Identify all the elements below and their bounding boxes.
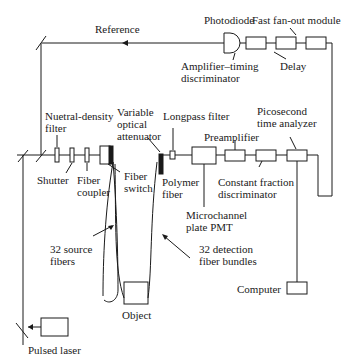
label-source-fibers-2: fibers xyxy=(50,255,75,267)
label-var-att-1: Variable xyxy=(117,106,154,118)
label-polymer-2: fiber xyxy=(162,188,183,200)
label-preamp: Preamplifier xyxy=(204,131,259,143)
label-computer: Computer xyxy=(237,283,281,295)
label-nd-filter-1: Nuetral-density xyxy=(45,110,113,122)
label-reference: Reference xyxy=(95,23,140,35)
label-detection-1: 32 detection xyxy=(199,243,253,255)
label-pico-2: time analyzer xyxy=(257,117,317,129)
label-amp-timing-2: discriminator xyxy=(181,72,240,84)
label-amp-timing-1: Amplifier–timing xyxy=(181,60,259,72)
label-fiber-switch-1: Fiber xyxy=(124,170,147,182)
label-delay: Delay xyxy=(280,60,306,72)
label-cfd-2: discriminator xyxy=(218,188,277,200)
diagram-root: Reference Photodiode Fast fan-out module… xyxy=(0,0,348,363)
label-cfd-1: Constant fraction xyxy=(218,176,294,188)
label-pulsed-laser: Pulsed laser xyxy=(28,344,81,356)
label-var-att-3: attenuator xyxy=(117,130,161,142)
label-var-att-2: optical xyxy=(117,118,147,130)
label-mcp-1: Microchannel xyxy=(186,209,247,221)
label-fiber-switch-2: switch xyxy=(124,182,153,194)
label-fiber-coupler-1: Fiber xyxy=(77,174,100,186)
label-longpass: Longpass filter xyxy=(163,110,229,122)
label-pico-1: Picosecond xyxy=(257,105,307,117)
label-nd-filter-2: filter xyxy=(45,122,66,134)
label-photodiode: Photodiode xyxy=(204,14,254,26)
label-source-fibers-1: 32 source xyxy=(50,243,92,255)
label-fanout: Fast fan-out module xyxy=(252,14,341,26)
label-fiber-coupler-2: coupler xyxy=(77,186,110,198)
label-object: Object xyxy=(122,309,151,321)
label-detection-2: fiber bundles xyxy=(199,255,257,267)
label-mcp-2: plate PMT xyxy=(186,221,233,233)
label-polymer-1: Polymer xyxy=(162,176,199,188)
label-shutter: Shutter xyxy=(37,174,69,186)
